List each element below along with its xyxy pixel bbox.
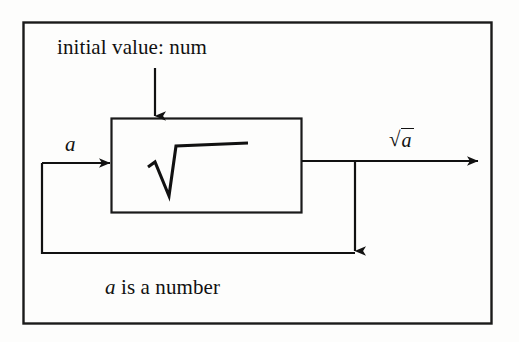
initial-value-label: initial value: num — [57, 37, 207, 58]
input-variable-label: a — [65, 134, 76, 155]
sqrt-glyph-icon — [148, 143, 248, 196]
figure-border — [24, 23, 492, 324]
output-radicand-label: a — [401, 128, 414, 150]
radical-icon: √ — [389, 129, 401, 150]
caption-variable: a — [105, 275, 116, 299]
feedback-return-wire — [42, 163, 355, 253]
figure-caption: a is a number — [105, 277, 220, 298]
sqrt-block — [112, 119, 302, 213]
output-sqrt-a-label: √a — [389, 128, 414, 150]
figure-container: initial value: num a √a a is a number — [0, 0, 519, 342]
caption-text: is a number — [121, 275, 220, 299]
